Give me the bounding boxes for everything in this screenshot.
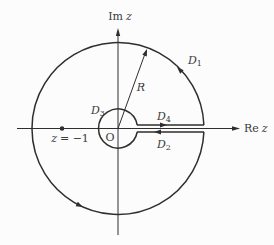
segment-d3-label: D3 [90, 104, 105, 118]
radius-label: R [136, 81, 145, 94]
imaginary-axis-arrow-icon [116, 28, 120, 36]
segment-d2-label: D2 [156, 138, 171, 152]
segment-d1-label: D1 [187, 54, 202, 68]
real-axis-arrow-icon [232, 126, 240, 130]
imaginary-axis-label: Imz [108, 10, 132, 23]
segment-d4-label: D4 [156, 110, 171, 124]
contour-diagram-canvas: Imz Rez O R z= −1 D1 D2 D3 D4 [0, 0, 274, 245]
lower-edge-left-arrow-icon [154, 130, 161, 135]
radius-arrow-icon [142, 48, 149, 56]
real-axis-label: Rez [244, 122, 268, 135]
origin-label: O [105, 131, 114, 144]
figure-keyhole-contour: Imz Rez O R z= −1 D1 D2 D3 D4 [0, 0, 274, 245]
pole-label: z= −1 [50, 132, 89, 145]
outer-circle-lower-arrow-icon [76, 202, 84, 210]
pole-point-marker [60, 126, 65, 131]
